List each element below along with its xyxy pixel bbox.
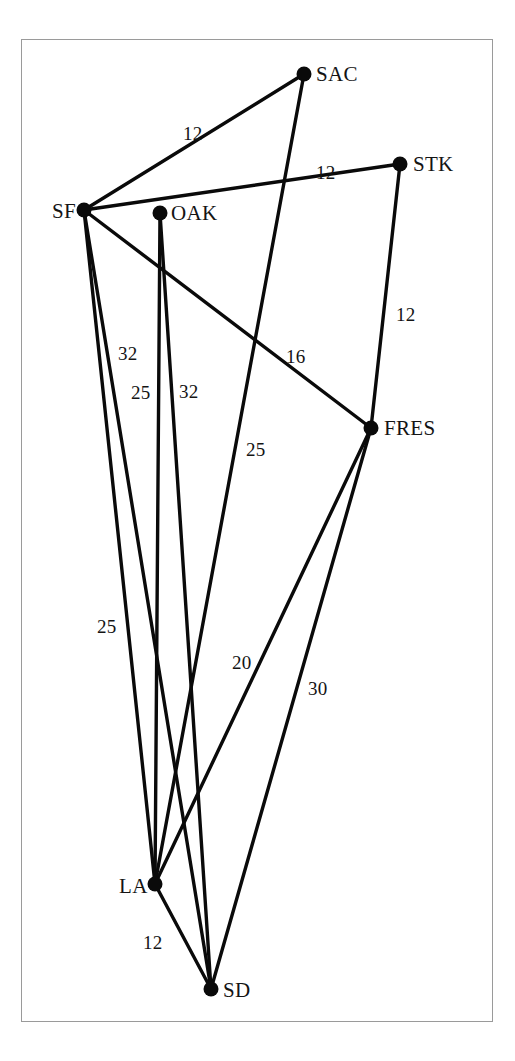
edge-weight-sf-fres: 16 [286, 347, 306, 366]
graph-edge [160, 213, 211, 989]
graph-edge [84, 210, 371, 428]
graph-node-sd [204, 982, 219, 997]
graph-edge [84, 164, 400, 210]
graph-node-stk [393, 157, 408, 172]
edge-weight-oak-sd: 25 [97, 617, 117, 636]
graph-edge [211, 428, 371, 989]
node-label-sac: SAC [316, 64, 358, 85]
edge-weight-oak-la: 32 [179, 382, 199, 401]
graph-node-fres [364, 421, 379, 436]
edge-weight-fres-la: 20 [232, 653, 252, 672]
edge-weight-fres-sd: 30 [308, 679, 328, 698]
graph-node-oak [153, 206, 168, 221]
edge-weight-sf-stk: 12 [316, 163, 336, 182]
edge-weight-stk-fres: 12 [396, 305, 416, 324]
graph-edge [155, 213, 160, 884]
graph-edges-group [84, 74, 400, 989]
figure-page: SFOAKSACSTKFRESLASD 12121632253225251220… [0, 0, 515, 1061]
graph-edge [371, 164, 400, 428]
edge-weight-la-sd: 12 [143, 933, 163, 952]
graph-nodes-group [77, 67, 408, 997]
graph-edge [84, 210, 155, 884]
node-label-stk: STK [413, 154, 454, 175]
edge-weight-sac-la: 25 [246, 440, 266, 459]
node-label-sf: SF [52, 201, 76, 222]
graph-edge [155, 428, 371, 884]
graph-node-sac [297, 67, 312, 82]
node-label-fres: FRES [384, 418, 435, 439]
node-label-la: LA [119, 876, 148, 897]
graph-node-sf [77, 203, 92, 218]
edge-weight-sf-sd: 25 [131, 383, 151, 402]
graph-edge [84, 210, 211, 989]
node-label-sd: SD [223, 980, 250, 1001]
node-label-oak: OAK [171, 203, 217, 224]
edge-weight-sf-la: 32 [118, 344, 138, 363]
graph-node-la [148, 877, 163, 892]
edge-weight-sf-sac: 12 [183, 124, 203, 143]
